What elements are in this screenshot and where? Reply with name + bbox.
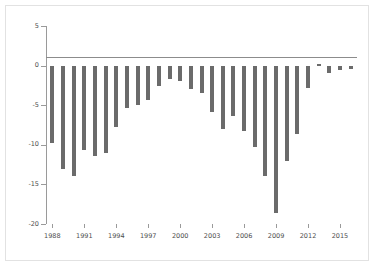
x-tick-label: 1994 xyxy=(108,232,125,240)
bar xyxy=(104,66,108,153)
x-tick-mark xyxy=(244,224,245,228)
bar xyxy=(274,66,278,213)
bar xyxy=(93,66,97,156)
x-tick-mark xyxy=(116,224,117,228)
x-tick-label: 2012 xyxy=(300,232,317,240)
bar xyxy=(285,66,289,161)
x-tick-label: 2009 xyxy=(268,232,285,240)
y-tick-mark xyxy=(41,184,46,185)
bar xyxy=(242,66,246,131)
bar xyxy=(146,66,150,101)
bar xyxy=(168,66,172,79)
y-tick-mark xyxy=(41,26,46,27)
y-tick-mark xyxy=(41,224,46,225)
x-tick-mark xyxy=(52,224,53,228)
bar xyxy=(306,66,310,88)
bar xyxy=(72,66,76,177)
x-tick-mark xyxy=(340,224,341,228)
y-tick-label: 5 xyxy=(35,23,39,30)
bar xyxy=(189,66,193,90)
y-tick-mark xyxy=(41,66,46,67)
x-tick-label: 2015 xyxy=(332,232,349,240)
x-tick-label: 1997 xyxy=(140,232,157,240)
bar xyxy=(114,66,118,128)
chart-figure: 50-5-10-15-20 19881991199419972000200320… xyxy=(0,0,374,266)
bar xyxy=(317,64,321,66)
bar xyxy=(61,66,65,169)
x-tick-mark xyxy=(212,224,213,228)
bar xyxy=(253,66,257,148)
y-axis-spine xyxy=(46,26,47,224)
x-tick-mark xyxy=(308,224,309,228)
bar xyxy=(327,66,331,73)
y-tick-label: -5 xyxy=(33,102,39,109)
y-tick-label: 0 xyxy=(35,62,39,69)
x-tick-mark xyxy=(180,224,181,228)
bar xyxy=(263,66,267,177)
x-tick-label: 1991 xyxy=(76,232,93,240)
x-tick-mark xyxy=(148,224,149,228)
y-tick-mark xyxy=(41,105,46,106)
bar xyxy=(178,66,182,81)
x-tick-label: 2003 xyxy=(204,232,221,240)
bar xyxy=(136,66,140,106)
bar xyxy=(82,66,86,150)
bar xyxy=(221,66,225,129)
bar xyxy=(200,66,204,93)
plot-area: 50-5-10-15-20 19881991199419972000200320… xyxy=(0,0,374,266)
x-tick-label: 2000 xyxy=(172,232,189,240)
y-tick-label: -20 xyxy=(28,221,39,228)
y-tick-label: -15 xyxy=(28,181,39,188)
bar xyxy=(157,66,161,87)
bar xyxy=(349,66,353,69)
bar xyxy=(210,66,214,113)
x-tick-label: 2006 xyxy=(236,232,253,240)
bar xyxy=(50,66,54,144)
bar xyxy=(338,66,342,70)
y-tick-label: -10 xyxy=(28,141,39,148)
bar xyxy=(125,66,129,109)
y-tick-mark xyxy=(41,145,46,146)
x-tick-mark xyxy=(84,224,85,228)
bar xyxy=(295,66,299,134)
zero-baseline xyxy=(46,57,357,58)
bar xyxy=(231,66,235,117)
x-tick-label: 1988 xyxy=(44,232,61,240)
x-tick-mark xyxy=(276,224,277,228)
